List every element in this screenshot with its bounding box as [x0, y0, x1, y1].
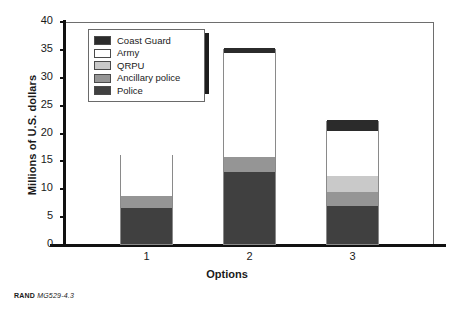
y-tick-label: 10 [13, 181, 53, 193]
y-tick-mark [60, 49, 66, 51]
bar-stack[interactable] [120, 155, 173, 245]
y-tick-mark [60, 21, 66, 23]
y-tick-label: 30 [13, 70, 53, 82]
y-tick-label: 25 [13, 98, 53, 110]
y-tick-label: 0 [13, 237, 53, 249]
legend-label: Coast Guard [117, 36, 171, 46]
bar-segment[interactable] [327, 176, 378, 192]
y-tick-label: 5 [13, 209, 53, 221]
legend-swatch [94, 86, 111, 95]
bar-segment[interactable] [121, 154, 172, 195]
y-tick-label: 15 [13, 153, 53, 165]
footer-number: MG529-4.3 [37, 292, 74, 299]
footer-source: RAND [14, 292, 35, 299]
bar-segment[interactable] [327, 206, 378, 244]
bar-stack[interactable] [223, 49, 276, 245]
bar-segment[interactable] [224, 53, 275, 157]
y-tick-mark [60, 160, 66, 162]
bar-stack[interactable] [326, 121, 379, 245]
bar-segment[interactable] [121, 208, 172, 244]
y-tick-mark [60, 188, 66, 190]
legend-label: Army [117, 48, 139, 58]
y-tick-mark [60, 77, 66, 79]
x-axis-title: Options [0, 268, 454, 280]
legend-item[interactable]: Ancillary police [94, 72, 199, 84]
y-tick-label: 35 [13, 42, 53, 54]
y-tick-mark [60, 105, 66, 107]
legend-swatch [94, 49, 111, 58]
bar-segment[interactable] [224, 157, 275, 171]
bar-segment[interactable] [327, 131, 378, 176]
legend-item[interactable]: Police [94, 85, 199, 97]
x-tick-label: 2 [220, 250, 280, 262]
x-tick-label: 1 [117, 250, 177, 262]
legend-item[interactable]: QRPU [94, 60, 199, 72]
bar-segment[interactable] [121, 196, 172, 208]
legend-swatch [94, 36, 111, 45]
legend-label: Police [117, 86, 143, 96]
y-tick-label: 40 [13, 14, 53, 26]
chart-figure: Millions of U.S. dollars 051015202530354… [0, 0, 454, 313]
y-tick-label: 20 [13, 126, 53, 138]
y-tick-mark [60, 133, 66, 135]
bar-segment[interactable] [224, 172, 275, 244]
y-tick-mark [60, 244, 66, 246]
bar-segment[interactable] [327, 120, 378, 131]
x-tick-label: 3 [323, 250, 383, 262]
chart-legend: Coast GuardArmyQRPUAncillary policePolic… [88, 29, 205, 102]
bar-segment[interactable] [224, 48, 275, 54]
legend-item[interactable]: Army [94, 47, 199, 59]
legend-item[interactable]: Coast Guard [94, 35, 199, 47]
figure-footer: RAND MG529-4.3 [14, 292, 74, 299]
legend-label: Ancillary police [117, 73, 180, 83]
legend-label: QRPU [117, 61, 144, 71]
legend-swatch [94, 61, 111, 70]
legend-swatch [94, 74, 111, 83]
bar-segment[interactable] [327, 192, 378, 206]
y-tick-mark [60, 216, 66, 218]
